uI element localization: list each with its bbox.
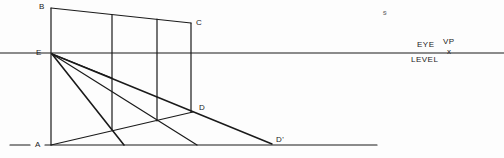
label-vp: VP [443, 38, 455, 46]
label-e: E [36, 49, 42, 57]
edge-b-c [51, 8, 191, 23]
diagram-lines [0, 0, 504, 158]
label-d-prime: D' [276, 136, 284, 144]
perspective-diagram: B C E A D D' EYE LEVEL VP x ᵴ [0, 0, 504, 158]
label-eye: EYE [417, 41, 435, 49]
label-level: LEVEL [411, 56, 438, 64]
vanishing-point-mark: x [447, 48, 452, 56]
label-a: A [35, 141, 41, 149]
ray-e-1 [52, 54, 124, 145]
stray-mark: ᵴ [383, 9, 387, 16]
ray-e-2 [52, 54, 197, 145]
label-c: C [196, 19, 202, 27]
label-b: B [39, 3, 45, 11]
label-d: D [199, 104, 205, 112]
